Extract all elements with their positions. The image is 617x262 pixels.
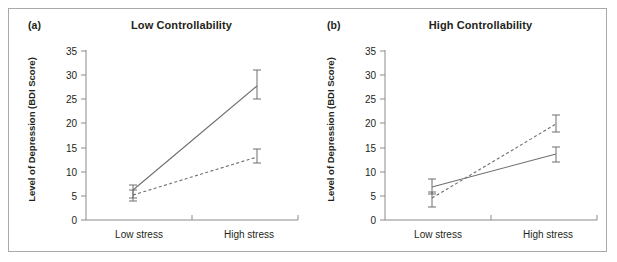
y-tick-0: 0 (71, 215, 77, 226)
y-tick-10: 10 (365, 167, 377, 178)
y-axis-b: 0 5 10 15 20 25 30 35 (365, 46, 385, 226)
y-tick-0: 0 (370, 215, 376, 226)
series-solid-a (129, 70, 261, 198)
y-tick-30: 30 (66, 70, 78, 81)
y-tick-25: 25 (66, 94, 78, 105)
x-category-high-stress-a: High stress (224, 229, 274, 240)
y-tick-15: 15 (365, 143, 377, 154)
series-solid-b (428, 147, 560, 194)
y-tick-15: 15 (66, 143, 78, 154)
x-category-high-stress-b: High stress (523, 229, 573, 240)
y-tick-20: 20 (66, 118, 78, 129)
chart-panel-b: (b) High Controllability Level of Depres… (308, 9, 607, 251)
x-category-low-stress-b: Low stress (414, 229, 462, 240)
series-dashed-a (129, 149, 261, 201)
plot-area-b: 0 5 10 15 20 25 30 35 (308, 9, 607, 251)
series-dashed-b (428, 115, 560, 207)
figure-frame: (a) Low Controllability Level of Depress… (8, 8, 607, 252)
y-tick-10: 10 (66, 167, 78, 178)
y-ticks-a (81, 51, 86, 220)
y-ticks-b (380, 51, 385, 220)
y-axis-a: 0 5 10 15 20 25 30 35 (66, 46, 86, 226)
y-tick-5: 5 (71, 191, 77, 202)
x-category-low-stress-a: Low stress (115, 229, 163, 240)
y-tick-25: 25 (365, 94, 377, 105)
y-tick-35: 35 (365, 46, 377, 57)
x-axis-a (86, 215, 298, 220)
x-axis-b (385, 215, 597, 220)
y-tick-35: 35 (66, 46, 78, 57)
y-tick-20: 20 (365, 118, 377, 129)
plot-area-a: 0 5 10 15 20 25 30 35 (9, 9, 308, 251)
y-tick-5: 5 (370, 191, 376, 202)
chart-panel-a: (a) Low Controllability Level of Depress… (9, 9, 308, 251)
y-tick-30: 30 (365, 70, 377, 81)
